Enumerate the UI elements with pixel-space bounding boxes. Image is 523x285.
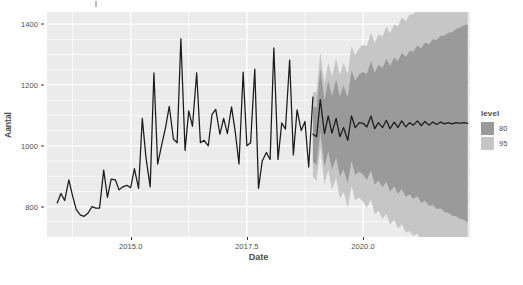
legend-title: level	[481, 109, 523, 118]
legend-items: 8095	[481, 121, 523, 151]
y-tick-label: 1200	[21, 80, 38, 89]
y-tick-mark	[41, 84, 44, 85]
y-tick-label: 800	[25, 202, 38, 211]
plot-svg	[47, 12, 470, 237]
legend-label: 80	[499, 124, 507, 133]
x-tick-label: 2015.0	[119, 242, 143, 251]
legend-label: 95	[499, 139, 507, 148]
plot-panel	[47, 12, 470, 237]
y-tick-mark	[41, 145, 44, 146]
y-tick-label: 1000	[21, 141, 38, 150]
y-tick-label: 1400	[21, 20, 38, 29]
legend-item[interactable]: 95	[481, 136, 523, 151]
y-axis-title: Aantal	[2, 12, 14, 237]
y-tick-mark	[41, 24, 44, 25]
legend-swatch-80	[481, 122, 494, 135]
x-tick-label: 2017.5	[235, 242, 259, 251]
top-artifact	[95, 1, 97, 7]
x-tick-label: 2020.0	[351, 242, 375, 251]
legend-item[interactable]: 80	[481, 121, 523, 136]
legend: level 8095	[481, 109, 523, 151]
y-tick-mark	[41, 206, 44, 207]
y-axis-title-label: Aantal	[3, 112, 13, 138]
legend-swatch-95	[481, 137, 494, 150]
forecast-chart: 800100012001400 Aantal 2015.02017.52020.…	[0, 0, 523, 285]
x-axis-title: Date	[47, 252, 470, 262]
x-tick-mark	[363, 237, 364, 240]
x-tick-mark	[247, 237, 248, 240]
x-tick-mark	[131, 237, 132, 240]
